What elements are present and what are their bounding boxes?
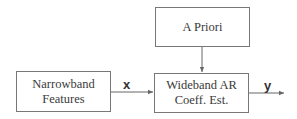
narrowband-features-block: Narrowband Features: [16, 71, 111, 112]
wideband-label-line2: Coeff. Est.: [175, 93, 229, 108]
narrowband-label-line1: Narrowband: [32, 77, 94, 92]
wideband-ar-block: Wideband AR Coeff. Est.: [154, 73, 249, 113]
a-priori-label: A Priori: [183, 20, 223, 35]
narrowband-label-line2: Features: [42, 92, 84, 107]
signal-y-label: y: [264, 78, 271, 93]
a-priori-block: A Priori: [155, 7, 250, 47]
signal-x-label: x: [123, 77, 130, 92]
wideband-label-line1: Wideband AR: [166, 78, 237, 93]
